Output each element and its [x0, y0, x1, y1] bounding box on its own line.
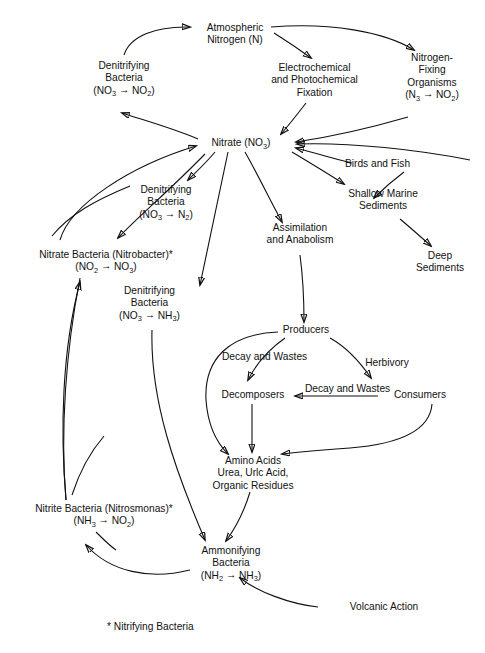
- node-birds-and-fish: Birds and Fish: [330, 158, 425, 170]
- formula-nitrate-bacteria: (NO2 → NO3): [6, 261, 206, 274]
- node-ammonifying-bacteria: Ammonifying Bacteria (NH2 → NH3): [176, 545, 286, 583]
- edge-label-decay-and-wastes-left: Decay and Wastes: [222, 351, 292, 363]
- arrow-nitrate-to-denitrifying-top: [122, 113, 198, 139]
- nitrogen-cycle-diagram: Atmospheric Nitrogen (N) Denitrifying Ba…: [0, 0, 485, 653]
- curve-nitrite-connector: [96, 532, 116, 550]
- formula-ammonifying: (NH2 → NH3): [176, 570, 286, 583]
- node-deep-sediments: Deep Sediments: [404, 250, 476, 275]
- node-electrochemical-fixation: Electrochemical and Photochemical Fixati…: [252, 62, 377, 99]
- formula-denitrifying-top: (NO3 → NO2): [64, 85, 184, 98]
- arrow-consumers-curve-to-amino-acids: [282, 404, 432, 454]
- formula-nitrogen-fixing: (N3 → NO2): [382, 89, 482, 102]
- node-volcanic-action: Volcanic Action: [334, 601, 434, 613]
- formula-denitrifying-n2: (NO3 → N2): [112, 209, 220, 222]
- arrow-denitrifying-to-atmospheric: [124, 27, 190, 55]
- arrow-nitrate-to-assimilation: [245, 152, 282, 222]
- node-nitrate: Nitrate (NO3): [186, 137, 296, 150]
- formula-denitrifying-nh3: (NO3 → NH3): [92, 310, 207, 323]
- node-decomposers: Decomposers: [213, 389, 293, 401]
- node-denitrifying-bacteria-top: Denitrifying Bacteria (NO3 → NO2): [64, 60, 184, 98]
- arrow-amino-acids-to-ammonifying: [226, 492, 250, 541]
- arrow-nitrogen-fixing-to-nitrate: [296, 117, 408, 142]
- node-nitrogen-fixing-organisms: Nitrogen- Fixing Organisms (N3 → NO2): [382, 52, 482, 103]
- curve-nitrate-bacteria-down: [64, 278, 80, 500]
- arrow-nitrate-to-denitrifying-n2: [188, 152, 215, 180]
- formula-nitrite-bacteria: (NH3 → NO2): [8, 515, 200, 528]
- arrow-ammonifying-to-nitrite-bacteria: [86, 545, 190, 574]
- node-atmospheric-nitrogen: Atmospheric Nitrogen (N): [190, 22, 280, 47]
- node-shallow-marine-sediments: Shallow Marine Sediments: [328, 188, 438, 213]
- arrow-assimilation-to-producers: [300, 255, 304, 322]
- node-denitrifying-bacteria-nh3: Denitrifying Bacteria (NO3 → NH3): [92, 285, 207, 323]
- arrow-electrochemical-to-nitrate: [281, 103, 306, 134]
- node-consumers: Consumers: [383, 389, 457, 401]
- arrow-atmospheric-to-nitrogen-fixing: [271, 26, 414, 50]
- node-producers: Producers: [275, 324, 337, 336]
- arrow-shallow-to-deep-sediments: [400, 219, 431, 246]
- node-amino-acids: Amino Acids Urea, Urlc Acid, Organic Res…: [195, 455, 311, 492]
- curve-nitrite-bacteria-up: [72, 436, 104, 495]
- edge-label-decay-and-wastes-mid: Decay and Wastes: [305, 383, 375, 395]
- edge-label-herbivory: Herbivory: [356, 357, 418, 369]
- node-nitrite-bacteria: Nitrite Bacteria (Nitrosmonas)* (NH3 → N…: [8, 503, 200, 529]
- formula-nitrate: Nitrate (NO3): [186, 137, 296, 150]
- footnote-nitrifying-bacteria: * Nitrifying Bacteria: [107, 621, 194, 633]
- node-denitrifying-bacteria-n2: Denitrifying Bacteria (NO3 → N2): [112, 184, 220, 222]
- node-nitrate-bacteria: Nitrate Bacteria (Nitrobacter)* (NO2 → N…: [6, 249, 206, 275]
- node-assimilation-and-anabolism: Assimilation and Anabolism: [244, 222, 356, 247]
